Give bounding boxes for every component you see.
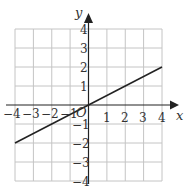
x-tick: 2 [121, 111, 129, 125]
x-tick: −2 [41, 107, 59, 121]
x-tick: 1 [103, 111, 111, 125]
y-tick: −3 [72, 156, 90, 170]
x-tick: 3 [139, 111, 147, 125]
x-tick: 4 [158, 111, 166, 125]
y-tick: 1 [80, 80, 88, 94]
coordinate-graph: x y O −4 −3 −2 −1 1 2 3 4 4 3 2 1 −1 −2 … [0, 0, 186, 193]
y-tick: −2 [72, 137, 90, 151]
y-tick: −1 [72, 118, 90, 132]
y-tick: 3 [80, 42, 88, 56]
y-tick: 4 [80, 23, 88, 37]
x-tick: −3 [22, 107, 40, 121]
x-tick: −4 [3, 107, 21, 121]
y-tick: 2 [80, 61, 88, 75]
x-axis-label: x [176, 108, 184, 123]
y-axis-label: y [74, 5, 83, 20]
y-tick: −4 [72, 175, 90, 189]
y-axis-arrow-icon [84, 13, 93, 23]
